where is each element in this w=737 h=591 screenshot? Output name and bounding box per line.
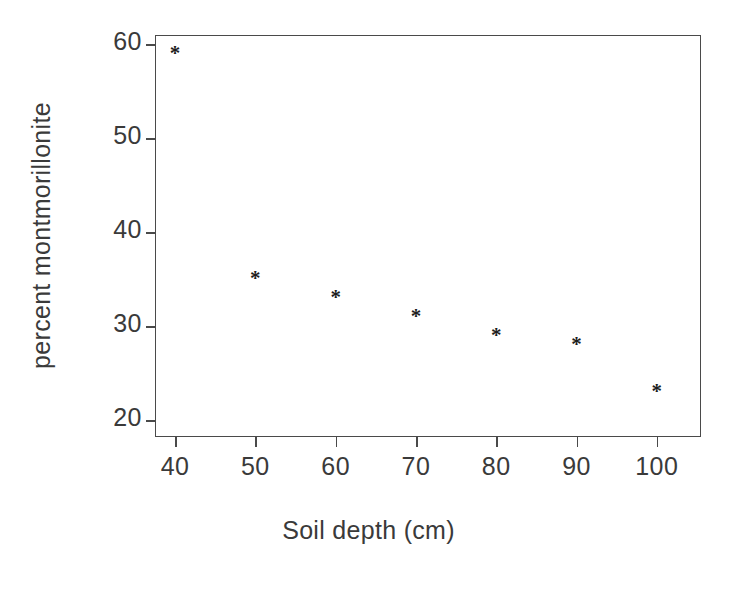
data-point-marker: *: [247, 270, 263, 286]
x-axis-title: Soil depth (cm): [0, 516, 737, 545]
x-tick-label: 70: [376, 452, 456, 481]
scatter-plot-figure: ******* 405060708090100 2030405060 Soil …: [0, 0, 737, 591]
x-tick-label: 100: [617, 452, 697, 481]
x-tick-mark: [175, 437, 177, 447]
x-tick-mark: [496, 437, 498, 447]
y-tick-mark: [146, 420, 156, 422]
x-tick-label: 90: [537, 452, 617, 481]
x-tick-label: 60: [296, 452, 376, 481]
data-point-marker: *: [408, 308, 424, 324]
y-axis-title-container: percent montmorillonite: [18, 0, 64, 470]
y-tick-mark: [146, 44, 156, 46]
data-point-marker: *: [167, 45, 183, 61]
y-axis-title: percent montmorillonite: [27, 102, 56, 369]
data-point-marker: *: [328, 289, 344, 305]
y-tick-mark: [146, 138, 156, 140]
x-tick-label: 50: [215, 452, 295, 481]
x-tick-mark: [416, 437, 418, 447]
data-point-marker: *: [488, 327, 504, 343]
x-tick-mark: [577, 437, 579, 447]
x-tick-mark: [336, 437, 338, 447]
x-tick-mark: [255, 437, 257, 447]
x-tick-mark: [657, 437, 659, 447]
data-point-marker: *: [649, 383, 665, 399]
data-point-marker: *: [569, 336, 585, 352]
data-points-layer: *******: [155, 35, 701, 437]
x-tick-label: 80: [456, 452, 536, 481]
x-tick-label: 40: [135, 452, 215, 481]
y-tick-mark: [146, 232, 156, 234]
y-tick-mark: [146, 326, 156, 328]
